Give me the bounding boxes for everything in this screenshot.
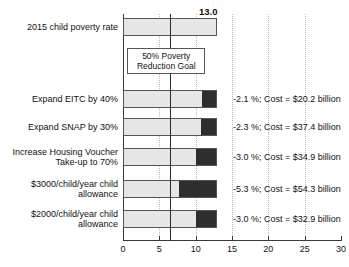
- x-tick-25: [305, 236, 306, 241]
- bar-segment-remaining: [124, 211, 196, 227]
- goal-box-line-1: 50% Poverty: [130, 51, 202, 61]
- x-tick-label-25: 25: [300, 244, 310, 254]
- bar-end-label: 13.0: [199, 6, 218, 17]
- x-tick-15: [232, 236, 233, 241]
- x-tick-0: [123, 236, 124, 241]
- bar-segment-reduction: [201, 119, 217, 135]
- value-annotation: -3.0 %; Cost = $32.9 billion: [233, 214, 341, 224]
- category-label-line: allowance: [0, 189, 118, 200]
- x-tick-5: [159, 236, 160, 241]
- x-tick-label-5: 5: [157, 244, 162, 254]
- category-label-line: $3000/child/year child: [0, 179, 118, 190]
- x-tick-label-0: 0: [120, 244, 125, 254]
- category-label-line: Take-up to 70%: [0, 157, 118, 168]
- poverty-reduction-chart: 2015 child poverty rateExpand EITC by 40…: [0, 0, 349, 267]
- category-label: $3000/child/year childallowance: [0, 179, 118, 200]
- bar-segment-remaining: [124, 119, 201, 135]
- value-annotation: -5.3 %; Cost = $54.3 billion: [233, 184, 341, 194]
- category-label-line: Expand SNAP by 30%: [0, 122, 118, 133]
- goal-annotation-box: 50% Poverty Reduction Goal: [127, 48, 205, 74]
- x-tick-20: [268, 236, 269, 241]
- bar-segment-remaining: [124, 149, 196, 165]
- category-label: 2015 child poverty rate: [0, 22, 118, 33]
- x-tick-label-30: 30: [336, 244, 346, 254]
- goal-box-line-2: Reduction Goal: [130, 61, 202, 71]
- bar-segment-remaining: [124, 91, 202, 107]
- bar-segment-reduction: [196, 149, 217, 165]
- category-label-line: Increase Housing Voucher: [0, 147, 118, 158]
- bar-segment-reduction: [179, 181, 217, 197]
- x-tick-label-15: 15: [227, 244, 237, 254]
- value-annotation: -2.3 %; Cost = $37.4 billion: [233, 122, 341, 132]
- x-tick-10: [196, 236, 197, 241]
- category-label: Increase Housing VoucherTake-up to 70%: [0, 147, 118, 168]
- category-label-line: Expand EITC by 40%: [0, 94, 118, 105]
- category-label: Expand SNAP by 30%: [0, 122, 118, 133]
- value-annotation: -2.1 %; Cost = $20.2 billion: [233, 94, 341, 104]
- category-label: $2000/child/year childallowance: [0, 209, 118, 230]
- x-tick-label-20: 20: [263, 244, 273, 254]
- x-tick-label-10: 10: [191, 244, 201, 254]
- category-label-line: allowance: [0, 219, 118, 230]
- x-tick-30: [341, 236, 342, 241]
- value-annotation: -3.0 %; Cost = $34.9 billion: [233, 152, 341, 162]
- bar-segment-reduction: [202, 91, 216, 107]
- category-label: Expand EITC by 40%: [0, 94, 118, 105]
- bar-segment-reduction: [196, 211, 217, 227]
- category-label-line: 2015 child poverty rate: [0, 22, 118, 33]
- category-label-line: $2000/child/year child: [0, 209, 118, 220]
